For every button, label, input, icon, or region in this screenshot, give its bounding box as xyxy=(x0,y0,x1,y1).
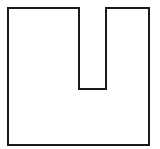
diagram-canvas xyxy=(0,0,160,149)
notched-square-outline xyxy=(8,8,149,145)
